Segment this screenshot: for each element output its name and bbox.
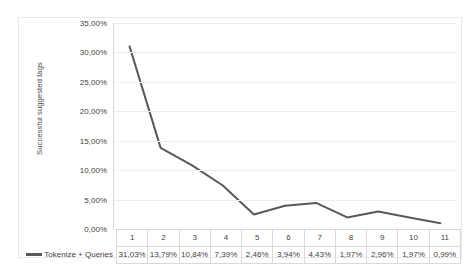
gridline-2500 <box>114 82 456 83</box>
y-axis-tick-labels: 0,00%5,00%10,00%15,00%20,00%25,00%30,00%… <box>55 18 111 230</box>
table-cell-value: 2,96% <box>367 247 398 264</box>
table-cell-category: 6 <box>273 230 304 247</box>
y-axis-tick-label: 10,00% <box>80 166 107 175</box>
table-cell-category: 5 <box>242 230 273 247</box>
table-cell-value: 4,43% <box>304 247 335 264</box>
y-axis-tick-label: 20,00% <box>80 107 107 116</box>
table-cell-category: 4 <box>210 230 241 247</box>
table-cell-value: 31,03% <box>117 247 148 264</box>
legend-entry: Tokenize + Queries <box>19 247 117 264</box>
table-cell-value: 13,79% <box>148 247 179 264</box>
table-cell-category: 2 <box>148 230 179 247</box>
legend-line-swatch-icon <box>26 253 42 256</box>
series-polyline <box>130 46 441 223</box>
y-axis-tick-label: 5,00% <box>84 195 107 204</box>
table-cell-category: 9 <box>367 230 398 247</box>
y-axis-tick-label: 30,00% <box>80 48 107 57</box>
table-cell-value: 1,97% <box>335 247 366 264</box>
category-row-spacer <box>19 230 117 247</box>
gridline-3500 <box>114 23 456 24</box>
gridline-2000 <box>114 111 456 112</box>
line-chart: Successful suggested tags 0,00%5,00%10,0… <box>18 17 462 258</box>
gridline-500 <box>114 200 456 201</box>
chart-data-table: 1234567891011 Tokenize + Queries 31,03%1… <box>19 229 461 264</box>
table-cell-category: 3 <box>179 230 210 247</box>
table-cell-category: 8 <box>335 230 366 247</box>
table-row-values: Tokenize + Queries 31,03%13,79%10,84%7,3… <box>19 247 461 264</box>
y-axis-tick-label: 15,00% <box>80 136 107 145</box>
y-axis-title: Successful suggested tags <box>35 29 44 189</box>
table-cell-value: 3,94% <box>273 247 304 264</box>
gridline-1000 <box>114 170 456 171</box>
table-cell-category: 1 <box>117 230 148 247</box>
legend-label: Tokenize + Queries <box>44 250 113 259</box>
table-cell-category: 10 <box>398 230 429 247</box>
table-cell-value: 0,99% <box>429 247 460 264</box>
series-line-tokenize-queries <box>114 23 456 229</box>
table-cell-value: 10,84% <box>179 247 210 264</box>
y-axis-tick-label: 25,00% <box>80 77 107 86</box>
gridline-1500 <box>114 141 456 142</box>
gridline-3000 <box>114 52 456 53</box>
table-row-categories: 1234567891011 <box>19 230 461 247</box>
plot-area <box>113 23 456 229</box>
y-axis-tick-label: 35,00% <box>80 19 107 28</box>
table-cell-category: 11 <box>429 230 460 247</box>
table-cell-value: 1,97% <box>398 247 429 264</box>
table-cell-category: 7 <box>304 230 335 247</box>
table-cell-value: 2,46% <box>242 247 273 264</box>
table-cell-value: 7,39% <box>210 247 241 264</box>
